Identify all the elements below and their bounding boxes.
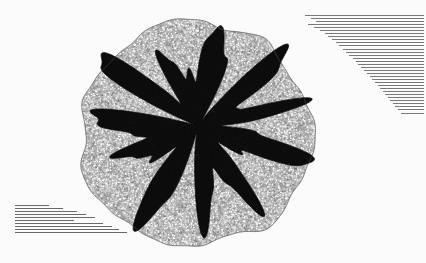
annotation-text-line: [372, 79, 424, 80]
annotation-text-line: [15, 211, 77, 212]
annotation-text-line: [308, 24, 424, 25]
annotation-text-line: [343, 49, 424, 50]
annotation-text-line: [375, 82, 424, 83]
annotation-text-line: [15, 229, 119, 230]
annotation-text-line: [311, 18, 424, 19]
annotation-text-line: [15, 205, 49, 206]
lower-left-annotation-text: [15, 205, 127, 235]
annotation-text-line: [325, 33, 424, 34]
annotation-text-line: [314, 27, 424, 28]
annotation-text-line: [15, 232, 127, 233]
annotation-text-line: [390, 100, 424, 101]
annotation-text-line: [320, 30, 424, 31]
annotation-text-line: [380, 88, 424, 89]
annotation-text-line: [15, 223, 103, 224]
annotation-text-line: [401, 113, 424, 114]
annotation-text-line: [15, 214, 86, 215]
annotation-text-line: [15, 226, 112, 227]
annotation-text-line: [336, 42, 424, 43]
annotation-text-line: [358, 64, 424, 65]
annotation-text-line: [378, 85, 424, 86]
annotation-text-line: [346, 52, 424, 53]
annotation-text-line: [383, 91, 424, 92]
annotation-text-line: [353, 58, 424, 59]
annotation-text-line: [15, 208, 63, 209]
annotation-text-line: [388, 97, 424, 98]
annotation-text-line: [395, 106, 424, 107]
annotation-text-line: [393, 103, 424, 104]
annotation-text-line: [349, 55, 424, 56]
annotation-text-line: [316, 21, 424, 22]
annotation-text-line: [370, 76, 424, 77]
annotation-text-line: [15, 217, 95, 218]
annotation-text-line: [339, 45, 424, 46]
upper-right-annotation-text: [305, 15, 424, 116]
annotation-text-line: [364, 70, 424, 71]
annotation-text-line: [305, 15, 424, 16]
annotation-text-line: [15, 220, 74, 221]
annotation-text-line: [328, 36, 424, 37]
annotation-text-line: [367, 73, 424, 74]
annotation-text-line: [356, 61, 424, 62]
annotation-text-line: [361, 67, 424, 68]
annotation-text-line: [332, 39, 424, 40]
annotation-text-line: [385, 94, 424, 95]
annotation-text-line: [398, 109, 424, 110]
